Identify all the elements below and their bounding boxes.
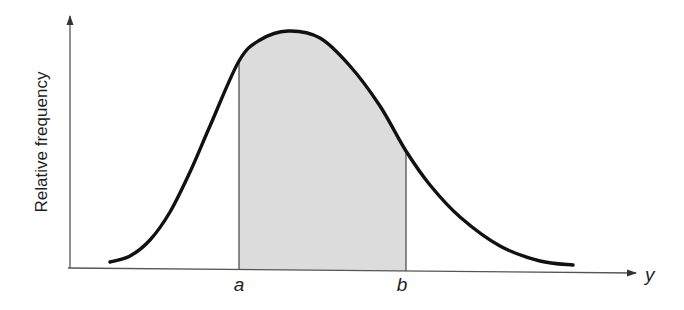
x-axis-label: y	[643, 264, 656, 285]
frequency-curve-chart: Relative frequency y a b	[0, 0, 684, 310]
shaded-area-a-to-b	[239, 31, 406, 271]
y-axis-label: Relative frequency	[32, 71, 51, 212]
tick-label-b: b	[397, 274, 408, 295]
tick-label-a: a	[234, 274, 245, 295]
